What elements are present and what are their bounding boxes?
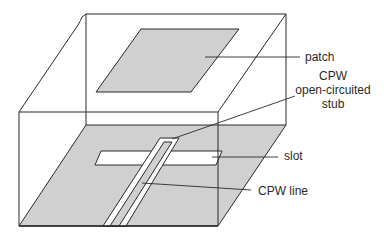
label-slot: slot: [284, 149, 303, 163]
label-patch: patch: [305, 50, 334, 64]
label-cpw-stub: CPW open-circuited stub: [290, 69, 376, 111]
antenna-diagram: [0, 0, 387, 241]
label-stub-line2: open-circuited: [290, 83, 376, 97]
label-cpw-line: CPW line: [258, 184, 308, 198]
patch-shape: [96, 29, 239, 92]
label-stub-line3: stub: [290, 97, 376, 111]
label-stub-line1: CPW: [290, 69, 376, 83]
